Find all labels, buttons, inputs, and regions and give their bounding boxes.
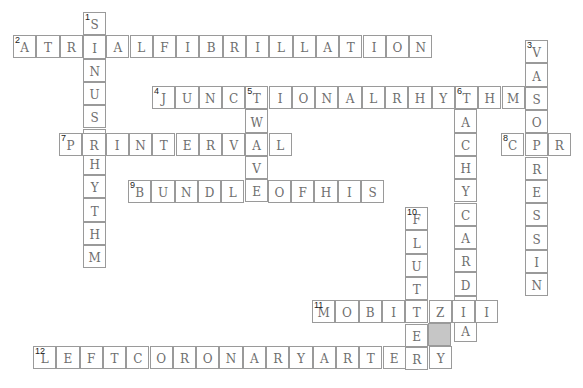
crossword-cell[interactable]: T [152, 133, 175, 156]
crossword-cell[interactable]: L [362, 86, 385, 109]
crossword-cell[interactable]: M [83, 245, 106, 268]
crossword-cell[interactable]: N [199, 86, 222, 109]
crossword-cell[interactable]: I [475, 300, 498, 323]
crossword-cell[interactable]: L [269, 133, 292, 156]
crossword-cell[interactable]: T [103, 346, 126, 369]
crossword-cell[interactable]: D [454, 272, 477, 295]
crossword-cell[interactable]: A2 [13, 35, 36, 58]
crossword-cell[interactable]: D [198, 180, 221, 203]
crossword-cell[interactable]: P [525, 133, 548, 156]
crossword-cell[interactable]: I [246, 35, 269, 58]
crossword-cell[interactable]: Y [432, 86, 455, 109]
crossword-cell[interactable]: M [502, 86, 525, 109]
crossword-cell[interactable]: R [266, 346, 289, 369]
crossword-cell[interactable]: T5 [245, 86, 268, 109]
crossword-cell[interactable]: B9 [128, 180, 151, 203]
crossword-cell[interactable]: N [175, 180, 198, 203]
crossword-cell[interactable]: R [173, 346, 196, 369]
crossword-cell[interactable]: A [338, 86, 361, 109]
crossword-cell[interactable]: A [245, 133, 268, 156]
crossword-cell[interactable]: A [243, 346, 266, 369]
crossword-cell[interactable]: S [525, 203, 548, 226]
crossword-cell[interactable]: R [385, 86, 408, 109]
crossword-cell[interactable]: O [292, 86, 315, 109]
crossword-cell[interactable]: H [314, 180, 337, 203]
crossword-cell[interactable]: L [269, 35, 292, 58]
crossword-cell[interactable]: A [454, 226, 477, 249]
crossword-cell[interactable]: N [525, 273, 548, 296]
crossword-cell[interactable]: L [221, 180, 244, 203]
crossword-cell[interactable]: V3 [525, 40, 548, 63]
crossword-cell[interactable]: A [106, 35, 129, 58]
crossword-cell[interactable]: R [525, 157, 548, 180]
crossword-cell[interactable]: L [405, 230, 428, 253]
crossword-cell[interactable]: O [196, 346, 219, 369]
crossword-cell[interactable]: L [293, 35, 316, 58]
crossword-cell[interactable]: I [176, 35, 199, 58]
crossword-cell[interactable]: B [199, 35, 222, 58]
crossword-cell[interactable]: Y [454, 179, 477, 202]
crossword-cell[interactable]: O [335, 300, 358, 323]
crossword-cell[interactable]: A [525, 63, 548, 86]
crossword-cell[interactable]: R [199, 133, 222, 156]
crossword-cell[interactable]: A [313, 346, 336, 369]
crossword-cell[interactable]: C [222, 86, 245, 109]
crossword-cell[interactable]: T [359, 346, 382, 369]
crossword-cell[interactable]: F [153, 35, 176, 58]
crossword-cell[interactable]: H [83, 222, 106, 245]
crossword-cell[interactable]: C [454, 133, 477, 156]
crossword-cell[interactable]: I [83, 35, 106, 58]
crossword-cell[interactable]: E [176, 133, 199, 156]
crossword-cell[interactable]: L [130, 35, 153, 58]
crossword-cell[interactable]: C [454, 203, 477, 226]
crossword-cell[interactable]: J4 [152, 86, 175, 109]
crossword-cell[interactable]: N [83, 59, 106, 82]
crossword-cell[interactable]: E [245, 179, 268, 202]
crossword-cell[interactable]: R [405, 347, 428, 370]
crossword-cell[interactable]: F [80, 346, 103, 369]
crossword-cell[interactable]: I [382, 300, 405, 323]
crossword-cell[interactable]: V [245, 156, 268, 179]
crossword-cell[interactable]: T [36, 35, 59, 58]
crossword-cell[interactable]: I [338, 180, 361, 203]
crossword-cell[interactable]: N [409, 35, 432, 58]
crossword-cell[interactable]: T [405, 277, 428, 300]
crossword-cell[interactable]: V [222, 133, 245, 156]
crossword-cell[interactable]: M11 [312, 300, 335, 323]
crossword-cell[interactable]: T [339, 35, 362, 58]
crossword-cell[interactable]: I [269, 86, 292, 109]
crossword-cell[interactable]: R [454, 249, 477, 272]
crossword-cell[interactable]: T [83, 198, 106, 221]
crossword-cell[interactable]: T6 [455, 86, 478, 109]
crossword-cell[interactable]: S [361, 180, 384, 203]
crossword-cell[interactable]: S [83, 105, 106, 128]
crossword-cell[interactable]: S1 [83, 12, 106, 35]
crossword-cell[interactable]: U [175, 86, 198, 109]
crossword-cell[interactable]: R [82, 133, 105, 156]
crossword-cell[interactable]: A [454, 109, 477, 132]
crossword-cell[interactable]: F [291, 180, 314, 203]
crossword-cell[interactable]: N [219, 346, 242, 369]
crossword-cell[interactable]: B [359, 300, 382, 323]
crossword-cell[interactable]: C8 [501, 133, 524, 156]
crossword-cell[interactable]: N [129, 133, 152, 156]
crossword-cell[interactable]: L12 [33, 346, 56, 369]
crossword-cell[interactable]: P7 [59, 133, 82, 156]
crossword-cell[interactable]: R [336, 346, 359, 369]
crossword-cell[interactable]: H [454, 156, 477, 179]
crossword-cell[interactable]: Y [289, 346, 312, 369]
crossword-cell[interactable]: I [452, 300, 475, 323]
crossword-cell[interactable]: U [151, 180, 174, 203]
crossword-cell[interactable]: R [60, 35, 83, 58]
crossword-cell[interactable]: S [525, 87, 548, 110]
crossword-cell[interactable]: O [525, 110, 548, 133]
crossword-cell[interactable]: E [383, 346, 406, 369]
crossword-cell[interactable]: Z [429, 300, 452, 323]
crossword-cell[interactable]: O [150, 346, 173, 369]
crossword-cell[interactable]: W [245, 109, 268, 132]
crossword-cell[interactable]: O [386, 35, 409, 58]
crossword-cell[interactable]: U [405, 254, 428, 277]
crossword-cell[interactable]: F10 [405, 207, 428, 230]
crossword-cell[interactable]: E [525, 180, 548, 203]
crossword-cell[interactable]: N [315, 86, 338, 109]
